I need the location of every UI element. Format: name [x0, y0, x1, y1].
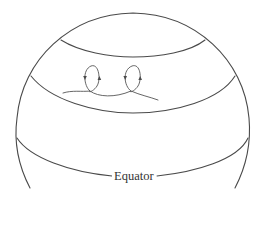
- equator-line-right: [157, 138, 248, 176]
- mid-latitude-line: [31, 76, 235, 113]
- cyclonic-loops: [63, 66, 158, 100]
- arrow-up-icon: [98, 76, 102, 80]
- equator-line-left: [17, 138, 112, 176]
- arrow-down-icon: [83, 76, 87, 80]
- polar-cap-boundary: [61, 40, 205, 57]
- arrow-down-icon: [123, 76, 127, 80]
- arrow-up-icon: [138, 76, 142, 80]
- equator-label: Equator: [112, 169, 156, 183]
